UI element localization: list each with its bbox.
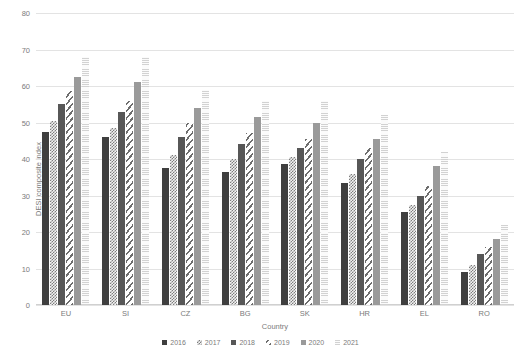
legend-item-2016[interactable]: 2016: [162, 339, 186, 346]
bar-cz-2018: [178, 137, 185, 305]
bar-sk-2017: [289, 157, 296, 305]
bar-el-2020: [433, 166, 440, 305]
bar-ro-2020: [493, 239, 500, 305]
bar-bg-2020: [254, 117, 261, 305]
y-tick-label: 50: [6, 118, 30, 127]
plot-area: [36, 13, 514, 305]
bar-eu-2017: [50, 121, 57, 305]
bar-el-2017: [409, 205, 416, 305]
bar-hr-2020: [373, 139, 380, 305]
x-axis-title: Country: [36, 322, 514, 331]
legend-swatch-2018-icon: [231, 340, 236, 345]
bar-sk-2020: [313, 123, 320, 306]
bar-ro-2021: [501, 225, 508, 305]
legend-label-2021: 2021: [343, 339, 359, 346]
bar-group-el: [395, 13, 455, 305]
bar-si-2020: [134, 82, 141, 305]
x-tick-label-hr: HR: [335, 309, 395, 321]
bar-hr-2018: [357, 159, 364, 305]
legend-label-2018: 2018: [239, 339, 255, 346]
legend-swatch-2020-icon: [301, 340, 306, 345]
bar-hr-2017: [349, 174, 356, 305]
bar-bg-2019: [246, 133, 253, 305]
chart-legend: 201620172018201920202021: [0, 339, 521, 346]
bar-hr-2021: [381, 115, 388, 305]
bar-el-2016: [401, 212, 408, 305]
bar-ro-2017: [469, 265, 476, 305]
legend-item-2018[interactable]: 2018: [231, 339, 255, 346]
legend-swatch-2016-icon: [162, 340, 167, 345]
bar-bg-2016: [222, 172, 229, 305]
bar-ro-2018: [477, 254, 484, 305]
legend-item-2021[interactable]: 2021: [335, 339, 359, 346]
x-tick-label-sk: SK: [275, 309, 335, 321]
bar-eu-2016: [42, 132, 49, 305]
bar-ro-2019: [485, 247, 492, 305]
bar-sk-2021: [321, 101, 328, 305]
gridline-0: [36, 305, 514, 306]
y-tick-label: 70: [6, 45, 30, 54]
y-tick-label: 80: [6, 9, 30, 18]
bar-si-2016: [102, 137, 109, 305]
bar-eu-2019: [66, 91, 73, 305]
legend-item-2020[interactable]: 2020: [301, 339, 325, 346]
bar-hr-2016: [341, 183, 348, 305]
legend-item-2017[interactable]: 2017: [197, 339, 221, 346]
bar-si-2021: [142, 57, 149, 305]
bar-si-2019: [126, 101, 133, 305]
legend-label-2016: 2016: [170, 339, 186, 346]
bar-si-2018: [118, 112, 125, 305]
bar-cz-2020: [194, 108, 201, 305]
bar-eu-2021: [82, 57, 89, 305]
bar-eu-2018: [58, 104, 65, 305]
bar-ro-2016: [461, 272, 468, 305]
bar-el-2021: [441, 152, 448, 305]
bar-hr-2019: [365, 148, 372, 305]
bar-el-2019: [425, 186, 432, 305]
legend-label-2020: 2020: [309, 339, 325, 346]
bar-el-2018: [417, 196, 424, 306]
bar-group-si: [96, 13, 156, 305]
bar-cz-2016: [162, 168, 169, 305]
x-tick-label-si: SI: [96, 309, 156, 321]
y-tick-label: 60: [6, 82, 30, 91]
bar-si-2017: [110, 128, 117, 305]
bar-groups: [36, 13, 514, 305]
bar-cz-2019: [186, 123, 193, 306]
x-axis-category-labels: EUSICZBGSKHRELRO: [36, 309, 514, 321]
y-tick-label: 30: [6, 191, 30, 200]
legend-label-2017: 2017: [205, 339, 221, 346]
bar-bg-2021: [262, 101, 269, 305]
legend-swatch-2019-icon: [266, 340, 271, 345]
bar-group-ro: [454, 13, 514, 305]
y-tick-label: 40: [6, 155, 30, 164]
x-tick-label-eu: EU: [36, 309, 96, 321]
bar-bg-2018: [238, 144, 245, 305]
y-tick-label: 0: [6, 301, 30, 310]
y-tick-label: 10: [6, 264, 30, 273]
bar-cz-2021: [202, 90, 209, 305]
x-tick-label-bg: BG: [215, 309, 275, 321]
x-tick-label-el: EL: [395, 309, 455, 321]
legend-item-2019[interactable]: 2019: [266, 339, 290, 346]
bar-sk-2016: [281, 164, 288, 305]
bar-group-hr: [335, 13, 395, 305]
bar-group-cz: [156, 13, 216, 305]
bar-cz-2017: [170, 155, 177, 305]
y-tick-label: 20: [6, 228, 30, 237]
legend-swatch-2017-icon: [197, 340, 202, 345]
x-tick-label-ro: RO: [454, 309, 514, 321]
bar-sk-2018: [297, 148, 304, 305]
bar-eu-2020: [74, 77, 81, 305]
x-tick-label-cz: CZ: [156, 309, 216, 321]
bar-group-bg: [215, 13, 275, 305]
bar-group-sk: [275, 13, 335, 305]
legend-swatch-2021-icon: [335, 340, 340, 345]
legend-label-2019: 2019: [274, 339, 290, 346]
bar-bg-2017: [230, 159, 237, 305]
bar-group-eu: [36, 13, 96, 305]
desi-bar-chart: DESI composite index 01020304050607080 E…: [0, 0, 521, 357]
bar-sk-2019: [305, 139, 312, 305]
